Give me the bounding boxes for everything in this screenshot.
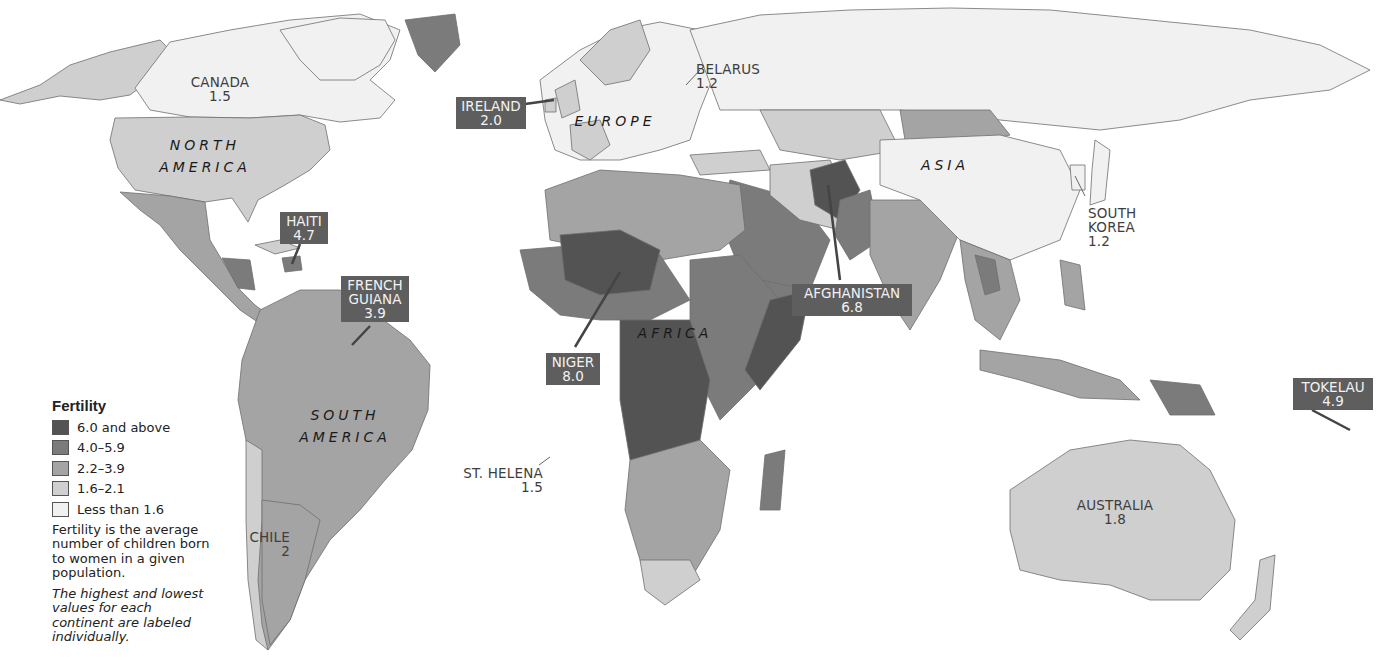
legend-item: 4.0–5.9 (52, 438, 242, 459)
legend-swatch (52, 481, 69, 496)
madagascar (760, 450, 785, 510)
legend-title: Fertility (52, 397, 242, 414)
callout-niger: NIGER8.0 (546, 353, 600, 385)
indonesia (980, 350, 1140, 400)
legend-definition: Fertility is the average number of child… (52, 523, 212, 581)
label-chile: CHILE2 (240, 530, 290, 558)
callout-tokelau: TOKELAU4.9 (1293, 378, 1373, 410)
south-africa (640, 560, 700, 605)
label-st-helena: ST. HELENA1.5 (455, 466, 543, 494)
callout-afghanistan: AFGHANISTAN6.8 (792, 284, 912, 316)
continent-label-africa: AFRICA (620, 322, 730, 344)
label-belarus: BELARUS1.2 (696, 62, 760, 90)
legend-swatch (52, 461, 69, 476)
argentina (262, 500, 320, 645)
japan (1090, 140, 1110, 205)
label-south-korea: SOUTHKOREA1.2 (1088, 206, 1136, 248)
continent-label-south-america: SOUTHAMERICA (280, 404, 410, 448)
new-zealand (1230, 555, 1275, 640)
korea (1070, 165, 1085, 190)
callout-french-guiana: FRENCHGUIANA3.9 (341, 276, 409, 322)
continent-label-europe: EUROPE (555, 110, 675, 132)
svalbard (405, 14, 460, 72)
continent-label-asia: ASIA (905, 154, 985, 176)
philippines (1060, 260, 1085, 310)
legend-item: 1.6–2.1 (52, 479, 242, 500)
legend-item: 6.0 and above (52, 417, 242, 438)
legend-item: 2.2–3.9 (52, 458, 242, 479)
callout-ireland: IRELAND2.0 (456, 97, 526, 129)
label-australia: AUSTRALIA1.8 (1065, 498, 1165, 526)
legend-swatch (52, 420, 69, 435)
kazakh (760, 110, 900, 160)
png (1150, 380, 1215, 415)
legend: Fertility 6.0 and above 4.0–5.9 2.2–3.9 … (52, 397, 242, 645)
continent-label-north-america: NORTHAMERICA (140, 134, 270, 178)
legend-swatch (52, 502, 69, 517)
label-canada: CANADA1.5 (180, 75, 260, 103)
legend-swatch (52, 440, 69, 455)
callout-haiti: HAITI4.7 (280, 212, 328, 244)
turkey (690, 150, 770, 175)
legend-item: Less than 1.6 (52, 499, 242, 520)
legend-note: The highest and lowest values for each c… (52, 587, 217, 645)
